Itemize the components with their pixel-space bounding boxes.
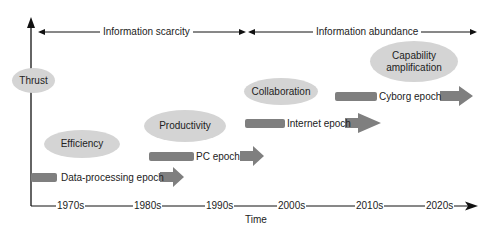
- thrust-efficiency: Efficiency: [44, 130, 120, 158]
- x-tick: 1970s: [56, 200, 85, 212]
- epoch-bar: [335, 92, 377, 101]
- thrust-productivity: Productivity: [144, 110, 226, 142]
- epoch-bar: [149, 152, 194, 161]
- epoch-arrow-icon: [440, 86, 473, 106]
- internet-epoch-label: Internet epoch: [287, 118, 351, 130]
- information-abundance-label: Information abundance: [313, 26, 421, 38]
- right-arrowhead-icon: [239, 29, 246, 35]
- epoch-arrow-icon: [240, 146, 264, 166]
- left-arrowhead-icon: [38, 29, 45, 35]
- y-axis-arrowhead-icon: [27, 17, 35, 28]
- x-tick: 2010s: [355, 200, 384, 212]
- left-arrowhead-icon: [248, 29, 255, 35]
- cyborg-epoch-label: Cyborg epoch: [379, 91, 441, 103]
- thrust-label-text: Thrust: [19, 75, 47, 87]
- x-tick: 1990s: [205, 200, 234, 212]
- information-scarcity-label: Information scarcity: [100, 26, 193, 38]
- pc-epoch-label: PC epoch: [196, 151, 240, 163]
- x-tick: 2000s: [277, 200, 306, 212]
- thrust-text: Capability amplification: [379, 50, 449, 74]
- thrust-text: Efficiency: [61, 138, 104, 150]
- thrust-collaboration: Collaboration: [244, 78, 318, 105]
- thrust-capability-amplification: Capability amplification: [370, 41, 458, 82]
- time-axis-label: Time: [245, 214, 267, 226]
- thrust-text: Productivity: [159, 120, 211, 132]
- x-tick: 2020s: [425, 200, 454, 212]
- thrust-text: Collaboration: [252, 86, 311, 98]
- thrust-axis-label: Thrust: [12, 68, 55, 93]
- data-processing-epoch-label: Data-processing epoch: [61, 172, 164, 184]
- epoch-bar: [31, 173, 57, 182]
- x-tick: 1980s: [133, 200, 162, 212]
- right-arrowhead-icon: [470, 29, 477, 35]
- epoch-bar: [245, 119, 285, 128]
